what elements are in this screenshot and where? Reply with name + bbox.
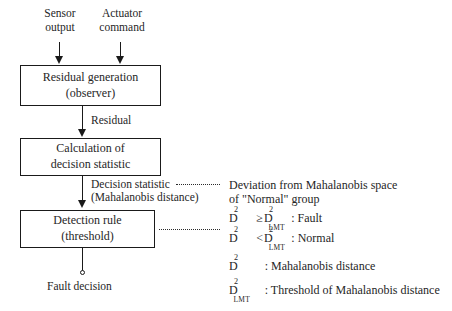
arrow-line-residual: [82, 106, 83, 131]
leader-dots-detection-rule: [159, 229, 220, 230]
legend-rule-fault: D2≥ D2LMT: Fault: [229, 211, 322, 226]
box-detection-rule-line1: Detection rule: [53, 213, 121, 229]
box-residual-generation: Residual generation (observer): [20, 65, 161, 106]
legend-rule-fault-lhs: D2: [229, 211, 256, 226]
box-calculation-decision-statistic-line2: decision statistic: [51, 157, 131, 173]
legend-rule-normal-colon: :: [291, 231, 294, 245]
legend-deviation-line2: of "Normal" group: [229, 192, 319, 207]
arrow-line-decision-statistic: [82, 176, 83, 202]
legend-rule-fault-rhs: D2LMT: [264, 211, 291, 226]
legend-definition-d2lmt-text: Threshold of Mahalanobis distance: [271, 283, 440, 297]
output-label-fault-decision: Fault decision: [47, 280, 112, 292]
legend-rule-fault-colon: :: [291, 211, 294, 225]
input-label-actuator-command: Actuator command: [84, 6, 160, 35]
output-line-fault-decision: [82, 248, 83, 271]
output-terminal-circle-icon: [80, 270, 85, 275]
legend-rule-normal-op: <: [256, 231, 263, 245]
legend-rule-fault-op: ≥: [256, 211, 263, 225]
box-residual-generation-line1: Residual generation: [43, 70, 139, 86]
legend-rule-normal-result: Normal: [298, 231, 335, 245]
input-label-actuator-command-line2: command: [84, 20, 160, 34]
box-residual-generation-line2: (observer): [66, 86, 115, 102]
arrowhead-decision-statistic: [78, 200, 86, 208]
legend-definition-d2lmt: D2LMT: Threshold of Mahalanobis distance: [229, 283, 440, 298]
edge-label-decision-statistic-line2: (Mahalanobis distance): [91, 191, 199, 203]
arrowhead-residual: [78, 129, 86, 137]
legend-deviation-line1: Deviation from Mahalanobis space: [229, 178, 397, 193]
legend-definition-d2: D2: Mahalanobis distance: [229, 259, 375, 274]
legend-definition-d2lmt-colon: :: [265, 283, 268, 297]
legend-rule-normal: D2< D2LMT: Normal: [229, 231, 334, 246]
box-calculation-decision-statistic: Calculation of decision statistic: [20, 138, 161, 176]
arrowhead-sensor-output: [55, 56, 63, 64]
box-detection-rule: Detection rule (threshold): [20, 210, 155, 248]
legend-definition-d2-symbol: D2: [229, 259, 265, 274]
box-detection-rule-line2: (threshold): [61, 229, 114, 245]
edge-label-residual: Residual: [91, 114, 131, 126]
diagram-canvas: Sensor output Actuator command Residual …: [0, 0, 452, 311]
legend-definition-d2-colon: :: [265, 259, 268, 273]
legend-rule-normal-lhs: D2: [229, 231, 256, 246]
legend-rule-fault-result: Fault: [297, 211, 322, 225]
input-label-actuator-command-line1: Actuator: [84, 6, 160, 20]
box-calculation-decision-statistic-line1: Calculation of: [56, 141, 124, 157]
arrowhead-actuator-command: [116, 56, 124, 64]
edge-label-decision-statistic-line1: Decision statistic: [91, 178, 170, 190]
leader-dots-decision-statistic: [176, 184, 220, 185]
legend-definition-d2-text: Mahalanobis distance: [271, 259, 375, 273]
legend-rule-normal-rhs: D2LMT: [264, 231, 291, 246]
legend-definition-d2lmt-symbol: D2LMT: [229, 283, 265, 298]
